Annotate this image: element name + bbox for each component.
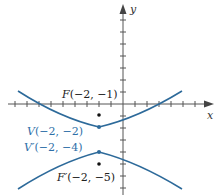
vertex-upper-point	[97, 125, 101, 129]
y-axis-arrow-icon	[120, 4, 127, 14]
focus-lower-point	[97, 162, 101, 166]
vertex-lower-label: V′(−2, −4)	[24, 141, 82, 154]
y-axis-label: y	[129, 3, 137, 16]
hyperbola-figure: x y F(	[0, 0, 216, 195]
vertex-upper-label: V(−2, −2)	[27, 125, 83, 138]
x-axis-arrow-icon	[204, 101, 214, 108]
x-axis-label: x	[207, 109, 214, 122]
focus-upper-label: F(−2, −1)	[61, 88, 118, 101]
focus-upper-point	[97, 113, 101, 117]
vertex-lower-point	[97, 150, 101, 154]
focus-lower-label: F′(−2, −5)	[56, 171, 115, 184]
y-axis	[120, 10, 126, 195]
x-axis	[8, 101, 208, 107]
